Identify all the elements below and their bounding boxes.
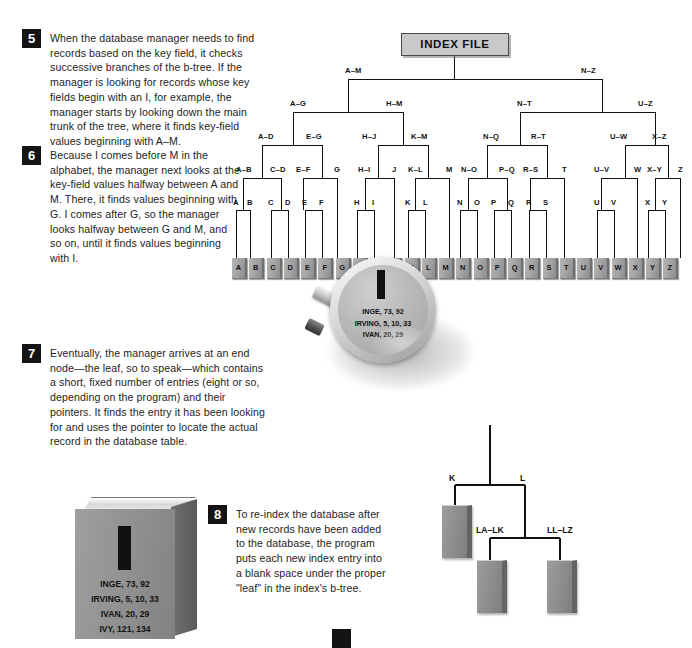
tree-label-l3-0: A–D <box>258 132 274 141</box>
tree-label-l3-7: X–Z <box>652 132 667 141</box>
book-front-face: INGE, 73, 92 IRVING, 5, 10, 33 IVAN, 20,… <box>75 509 175 639</box>
tree-label-l4-7: M <box>446 165 453 174</box>
book-entry: INGE, 73, 92 <box>75 577 175 592</box>
tree-label-l4-12: U–V <box>594 165 609 174</box>
tree-label-l5-16: U <box>594 198 600 207</box>
tree-label-l2-1: H–M <box>386 99 403 108</box>
leaf-slab-ll-lz <box>547 560 577 613</box>
tree-label-l3-2: H–J <box>362 132 377 141</box>
book-entry: IVY, 121, 134 <box>75 622 175 637</box>
magnifier-handle-tip <box>304 318 325 336</box>
index-volume-book: INGE, 73, 92 IRVING, 5, 10, 33 IVAN, 20,… <box>75 497 210 639</box>
letter-card-y: Y <box>646 258 661 279</box>
tree-label-l3-4: N–Q <box>483 132 499 141</box>
book-letter-bar <box>118 526 131 570</box>
step-5-badge: 5 <box>22 29 41 48</box>
letter-card-v: V <box>594 258 609 279</box>
tree-label-l2-3: U–Z <box>638 99 653 108</box>
tree-label-l4-5: J <box>392 165 396 174</box>
index-file-box: INDEX FILE <box>401 33 509 56</box>
step-6-text: Because I comes before M in the alphabet… <box>50 148 240 266</box>
tree-label-l5-6: H <box>354 198 360 207</box>
reindex-leaf-diagram: K L LA–LK LL–LZ <box>420 420 620 620</box>
tree-label-l5-8: K <box>405 198 411 207</box>
leaf-slab-k <box>442 505 472 558</box>
tree-label-l5-13: Q <box>508 198 514 207</box>
tree-label-l4-13: W <box>634 165 641 174</box>
tree-label-l1-0: A–M <box>345 66 362 75</box>
magnified-entry: INGE, 73, 92 <box>338 306 428 318</box>
tree-label-l3-6: U–W <box>610 132 627 141</box>
step-7-badge: 7 <box>22 344 41 363</box>
tree-label-l5-11: O <box>474 198 480 207</box>
tree-label-l4-14: X–Y <box>647 165 662 174</box>
tree-label-l3-5: R–T <box>531 132 546 141</box>
letter-card-w: W <box>612 258 627 279</box>
tree-label-l5-17: V <box>611 198 616 207</box>
letter-card-o: O <box>474 258 489 279</box>
letter-card-p: P <box>491 258 506 279</box>
tree-label-l5-2: C <box>268 198 274 207</box>
step-5-text: When the database manager needs to find … <box>50 31 260 149</box>
tree-label-l2-2: N–T <box>517 99 532 108</box>
leaf-label-l: L <box>520 473 525 483</box>
tree-label-l5-4: E <box>302 198 307 207</box>
tree-label-l4-6: K–L <box>408 165 423 174</box>
leaf-label-la-lk: LA–LK <box>476 525 504 535</box>
tree-label-l3-1: E–G <box>306 132 322 141</box>
letter-card-d: D <box>284 258 299 279</box>
book-entry: IRVING, 5, 10, 33 <box>75 592 175 607</box>
step-6-badge: 6 <box>22 146 41 165</box>
leaf-slab-la-lk <box>477 560 507 613</box>
tree-label-l4-3: G <box>334 165 340 174</box>
next-step-badge-partial <box>332 629 351 648</box>
letter-card-t: T <box>560 258 575 279</box>
tree-label-l5-10: N <box>457 198 463 207</box>
book-entries: INGE, 73, 92 IRVING, 5, 10, 33 IVAN, 20,… <box>75 577 175 637</box>
leaf-label-ll-lz: LL–LZ <box>547 525 573 535</box>
tree-label-l4-2: E–F <box>296 165 311 174</box>
step-8-text: To re-index the database after new recor… <box>236 507 388 595</box>
tree-label-l4-1: C–D <box>270 165 286 174</box>
tree-label-l5-5: F <box>319 198 324 207</box>
leaf-label-k: K <box>449 473 455 483</box>
tree-label-l5-14: R <box>526 198 532 207</box>
magnified-letter-bar <box>377 270 385 299</box>
book-entry: IVAN, 20, 29 <box>75 607 175 622</box>
step-8-badge: 8 <box>208 505 227 524</box>
tree-label-l5-15: S <box>543 198 548 207</box>
letter-card-q: Q <box>508 258 523 279</box>
letter-card-u: U <box>577 258 592 279</box>
tree-label-l5-1: B <box>247 198 253 207</box>
tree-label-l4-11: T <box>562 165 567 174</box>
letter-card-x: X <box>629 258 644 279</box>
tree-label-l4-9: P–Q <box>499 165 515 174</box>
letter-card-r: R <box>525 258 540 279</box>
tree-label-l3-3: K–M <box>411 132 428 141</box>
tree-label-l5-9: L <box>423 198 428 207</box>
tree-label-l5-7: I <box>372 198 374 207</box>
tree-label-l5-18: X <box>645 198 650 207</box>
magnifying-glass: INGE, 73, 92 IRVING, 5, 10, 33 IVAN, 20,… <box>312 255 472 405</box>
tree-label-l4-15: Z <box>678 165 683 174</box>
tree-label-l4-10: R–S <box>523 165 538 174</box>
letter-card-s: S <box>543 258 558 279</box>
tree-label-l4-4: H–I <box>358 165 370 174</box>
tree-label-l5-12: P <box>491 198 496 207</box>
tree-label-l5-19: Y <box>662 198 667 207</box>
step-7-text: Eventually, the manager arrives at an en… <box>50 346 268 449</box>
tree-label-l5-3: D <box>285 198 291 207</box>
tree-label-l1-1: N–Z <box>581 66 596 75</box>
magnifier-lens: INGE, 73, 92 IRVING, 5, 10, 33 IVAN, 20,… <box>338 265 428 355</box>
letter-card-c: C <box>267 258 282 279</box>
letter-card-b: B <box>249 258 264 279</box>
tree-label-l2-0: A–G <box>290 99 306 108</box>
letter-card-z: Z <box>663 258 678 279</box>
tree-label-l4-8: N–O <box>461 165 477 174</box>
